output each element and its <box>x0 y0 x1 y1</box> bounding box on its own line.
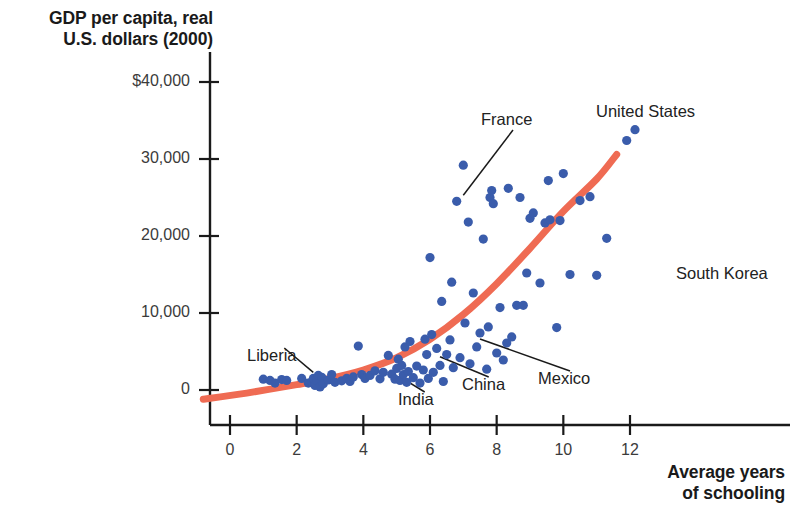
y-axis-title: GDP per capita, real U.S. dollars (2000) <box>8 8 213 49</box>
data-point <box>499 355 508 364</box>
data-point <box>452 197 461 206</box>
data-point <box>479 235 488 244</box>
data-point <box>469 288 478 297</box>
data-point <box>439 377 448 386</box>
x-tick-label: 4 <box>343 441 383 460</box>
annotation-label: Mexico <box>538 369 590 388</box>
data-point <box>282 376 291 385</box>
y-tick-label: 10,000 <box>80 303 190 322</box>
data-point <box>384 351 393 360</box>
data-point <box>529 208 538 217</box>
data-point <box>425 253 434 262</box>
y-tick-label: 20,000 <box>80 226 190 245</box>
y-tick-label: 0 <box>80 380 190 399</box>
data-point <box>427 330 436 339</box>
x-tick-label: 12 <box>610 441 650 460</box>
data-point <box>447 278 456 287</box>
data-point <box>449 363 458 372</box>
x-tick-label: 10 <box>543 441 583 460</box>
data-point <box>442 350 451 359</box>
data-point <box>592 271 601 280</box>
data-point <box>379 368 388 377</box>
y-tick-label: 30,000 <box>80 149 190 168</box>
x-axis-title-line1: Average years <box>667 462 785 482</box>
y-tick-label: $40,000 <box>80 72 190 91</box>
annotation-label: United States <box>596 102 695 121</box>
annotation-label: Liberia <box>247 346 297 365</box>
data-point <box>370 366 379 375</box>
data-point <box>535 278 544 287</box>
y-axis-title-line2: U.S. dollars (2000) <box>63 29 213 49</box>
data-point <box>507 332 516 341</box>
data-point <box>515 193 524 202</box>
annotation-leader-line <box>440 357 489 377</box>
data-point <box>429 368 438 377</box>
x-axis-title: Average years of schooling <box>600 462 785 503</box>
x-axis-title-line2: of schooling <box>682 483 785 503</box>
data-point <box>585 192 594 201</box>
data-point <box>419 365 428 374</box>
data-point <box>565 270 574 279</box>
data-point <box>544 176 553 185</box>
data-point <box>482 365 491 374</box>
data-point <box>602 234 611 243</box>
data-point <box>455 353 464 362</box>
data-point <box>484 322 493 331</box>
x-tick-label: 2 <box>277 441 317 460</box>
data-point <box>487 186 496 195</box>
data-point <box>432 344 441 353</box>
annotation-label: China <box>462 375 505 394</box>
data-point <box>555 216 564 225</box>
data-point <box>354 342 363 351</box>
data-point <box>630 125 639 134</box>
data-point <box>489 199 498 208</box>
data-points <box>259 125 640 391</box>
data-point <box>495 303 504 312</box>
data-point <box>465 359 474 368</box>
data-point <box>472 342 481 351</box>
annotation-label: South Korea <box>676 264 768 283</box>
annotation-label: France <box>481 110 532 129</box>
data-point <box>445 335 454 344</box>
data-point <box>622 136 631 145</box>
data-point <box>519 301 528 310</box>
axis-lines <box>210 52 790 425</box>
data-point <box>349 372 358 381</box>
data-point <box>545 215 554 224</box>
data-point <box>415 379 424 388</box>
data-point <box>459 161 468 170</box>
data-point <box>522 268 531 277</box>
data-point <box>492 348 501 357</box>
x-tick-label: 0 <box>210 441 250 460</box>
data-point <box>575 196 584 205</box>
x-tick-label: 6 <box>410 441 450 460</box>
x-tick-label: 8 <box>477 441 517 460</box>
annotation-label: India <box>398 390 434 409</box>
data-point <box>559 169 568 178</box>
data-point <box>422 350 431 359</box>
data-point <box>552 323 561 332</box>
scatter-chart-figure: GDP per capita, real U.S. dollars (2000)… <box>0 0 790 508</box>
data-point <box>464 218 473 227</box>
data-point <box>460 318 469 327</box>
y-axis-title-line1: GDP per capita, real <box>49 8 213 28</box>
data-point <box>437 297 446 306</box>
data-point <box>475 328 484 337</box>
data-point <box>405 337 414 346</box>
data-point <box>435 361 444 370</box>
data-point <box>504 184 513 193</box>
